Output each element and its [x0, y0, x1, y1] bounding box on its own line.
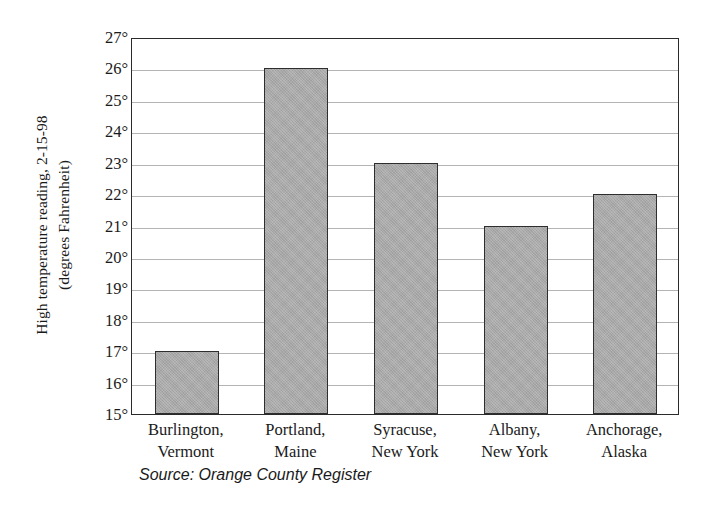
category-label-line-2: Maine [241, 441, 351, 463]
category-label-line-2: New York [350, 441, 460, 463]
x-axis-category-label: Portland,Maine [241, 419, 351, 463]
x-axis-category-label: Albany,New York [460, 419, 570, 463]
category-label-line-2: New York [460, 441, 570, 463]
y-axis-tick-labels: 27°26°25°24°23°22°21°20°19°18°17°16°15° [96, 38, 128, 415]
y-axis-tick-label: 24° [96, 124, 128, 141]
y-axis-title-line-2: (degrees Fahrenheit) [55, 55, 75, 395]
plot-area [131, 38, 679, 415]
category-label-line-1: Portland, [265, 420, 325, 439]
y-axis-tick-label: 27° [96, 30, 128, 47]
bars-layer [132, 39, 678, 414]
category-label-line-1: Anchorage, [586, 420, 663, 439]
category-label-line-2: Alaska [569, 441, 679, 463]
bar [264, 68, 328, 414]
y-axis-tick-label: 26° [96, 61, 128, 78]
y-axis-tick-label: 21° [96, 218, 128, 235]
y-axis-tick-label: 22° [96, 187, 128, 204]
x-axis-category-label: Syracuse,New York [350, 419, 460, 463]
y-axis-tick-label: 16° [96, 375, 128, 392]
category-label-line-1: Burlington, [148, 420, 224, 439]
y-axis-tick-label: 15° [96, 407, 128, 424]
y-axis-tick-label: 23° [96, 155, 128, 172]
bar [155, 351, 219, 414]
y-axis-tick-label: 17° [96, 344, 128, 361]
source-note: Source: Orange County Register [139, 466, 371, 484]
x-axis-category-labels: Burlington,VermontPortland,MaineSyracuse… [131, 419, 679, 465]
category-label-line-1: Syracuse, [373, 420, 437, 439]
y-axis-tick-label: 20° [96, 250, 128, 267]
bar [593, 194, 657, 414]
category-label-line-1: Albany, [489, 420, 541, 439]
category-label-line-2: Vermont [131, 441, 241, 463]
y-axis-tick-label: 25° [96, 93, 128, 110]
x-axis-category-label: Burlington,Vermont [131, 419, 241, 463]
bar [484, 226, 548, 415]
x-axis-category-label: Anchorage,Alaska [569, 419, 679, 463]
y-axis-tick-label: 18° [96, 313, 128, 330]
y-axis-title: High temperature reading, 2-15-98 (degre… [0, 0, 100, 420]
y-axis-tick-label: 19° [96, 281, 128, 298]
bar [374, 163, 438, 414]
y-axis-title-line-1: High temperature reading, 2-15-98 [33, 55, 53, 395]
